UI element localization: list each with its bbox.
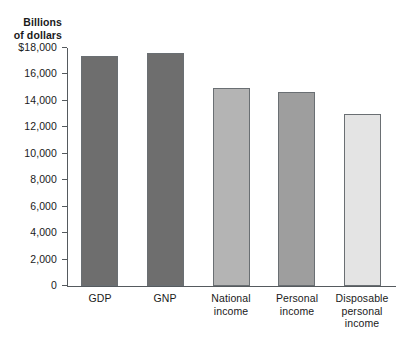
y-axis-tick-label: 4,000	[0, 226, 57, 239]
y-axis-tick-label: 8,000	[0, 173, 57, 186]
y-axis-tick-label: 2,000	[0, 253, 57, 266]
y-axis-tick-mark	[62, 206, 67, 207]
y-axis-title: Billions of dollars	[0, 16, 62, 41]
bar-chart: Billions of dollars $18,00016,00014,0001…	[0, 0, 410, 340]
y-axis-tick-label: 12,000	[0, 120, 57, 133]
x-axis-category-label-line-2: personal	[323, 305, 401, 318]
y-axis-tick-mark	[62, 179, 67, 180]
y-axis-line	[67, 48, 68, 287]
bar	[81, 56, 118, 286]
y-axis-title-line-1: Billions	[0, 16, 62, 29]
y-axis-tick-mark	[62, 100, 67, 101]
y-axis-tick-label: 0	[0, 279, 57, 292]
x-axis-category-label: Disposablepersonalincome	[323, 292, 401, 330]
y-axis-title-line-2: of dollars	[0, 29, 62, 42]
y-axis-tick-mark	[62, 259, 67, 260]
y-axis-tick-label: 14,000	[0, 94, 57, 107]
y-axis-tick-mark	[62, 285, 67, 286]
y-axis-tick-label: $18,000	[0, 41, 57, 54]
y-axis-tick-label: 10,000	[0, 147, 57, 160]
x-axis-category-label-line-3: income	[323, 317, 401, 330]
y-axis-tick-mark	[62, 47, 67, 48]
y-axis-tick-mark	[62, 126, 67, 127]
y-axis-tick-mark	[62, 73, 67, 74]
x-axis-line	[67, 286, 396, 287]
bar	[213, 88, 250, 286]
y-axis-tick-label: 6,000	[0, 200, 57, 213]
y-axis-tick-label: 16,000	[0, 67, 57, 80]
y-axis-tick-mark	[62, 232, 67, 233]
y-axis-tick-mark	[62, 153, 67, 154]
bar	[147, 53, 184, 286]
bar	[278, 92, 315, 286]
bar	[344, 114, 381, 286]
x-axis-category-label-line-1: Disposable	[323, 292, 401, 305]
